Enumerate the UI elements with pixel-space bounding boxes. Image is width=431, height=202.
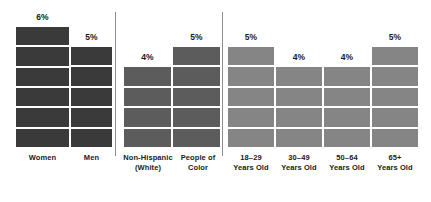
bar-segment	[372, 86, 418, 106]
bar-segment	[228, 86, 274, 106]
bar-segment	[324, 106, 370, 127]
bar-people-of-color	[173, 45, 220, 147]
category-label-line: 50–64	[324, 153, 370, 163]
group-age-bars: 5% 4% 4%	[228, 0, 431, 147]
bar-slot-age-18-29: 5%	[228, 0, 274, 147]
bar-segment	[173, 86, 220, 106]
category-label-line: People of	[174, 153, 222, 163]
bar-segment	[16, 45, 69, 65]
bar-slot-men: 5%	[71, 0, 112, 147]
group-divider-1	[115, 12, 116, 156]
bar-segment	[228, 65, 274, 85]
bar-segment	[276, 86, 322, 107]
bar-segment	[372, 127, 418, 147]
bar-segment	[124, 127, 171, 148]
bar-segment	[16, 25, 69, 45]
category-label-line: Men	[71, 153, 112, 163]
bar-slot-non-hispanic-white: 4%	[124, 0, 171, 147]
bar-slot-age-65-plus: 5%	[372, 0, 418, 147]
bar-segment	[71, 86, 112, 106]
bar-non-hispanic-white	[124, 65, 171, 147]
bar-women	[16, 25, 69, 147]
bar-segment	[124, 106, 171, 127]
bar-value-age-30-49: 4%	[276, 53, 322, 62]
category-label-line: Color	[174, 163, 222, 173]
bar-segment	[324, 127, 370, 148]
bar-segment	[228, 127, 274, 147]
category-label-line: Years Old	[372, 163, 418, 173]
bar-segment	[372, 65, 418, 85]
category-label-age-30-49: 30–49 Years Old	[276, 153, 322, 173]
group-race-ethnicity-bars: 4% 5%	[122, 0, 222, 147]
bar-age-50-64	[324, 65, 370, 147]
bar-segment	[173, 127, 220, 147]
bar-segment	[173, 45, 220, 65]
bar-value-women: 6%	[16, 13, 69, 22]
bar-segment	[228, 106, 274, 126]
bar-slot-women: 6%	[16, 0, 69, 147]
category-label-age-65-plus: 65+ Years Old	[372, 153, 418, 173]
bar-segment	[16, 86, 69, 106]
group-divider-2	[222, 12, 223, 156]
category-label-line: (White)	[118, 163, 178, 173]
bar-value-non-hispanic-white: 4%	[124, 53, 171, 62]
bar-age-30-49	[276, 65, 322, 147]
bar-value-age-50-64: 4%	[324, 53, 370, 62]
category-label-age-18-29: 18–29 Years Old	[228, 153, 274, 173]
bar-segment	[71, 45, 112, 65]
bar-value-age-65-plus: 5%	[372, 33, 418, 42]
category-label-line: Years Old	[276, 163, 322, 173]
category-label-line: 30–49	[276, 153, 322, 163]
group-gender-bars: 6% 5%	[0, 0, 115, 147]
bar-segment	[276, 127, 322, 148]
category-label-men: Men	[71, 153, 112, 163]
bar-segment	[324, 65, 370, 86]
bar-segment	[71, 127, 112, 147]
bar-segment	[124, 86, 171, 107]
bar-segment	[372, 45, 418, 65]
category-label-age-50-64: 50–64 Years Old	[324, 153, 370, 173]
bar-age-65-plus	[372, 45, 418, 147]
bar-segment	[173, 106, 220, 126]
category-label-women: Women	[16, 153, 69, 163]
bar-slot-age-50-64: 4%	[324, 0, 370, 147]
bar-slot-people-of-color: 5%	[173, 0, 220, 147]
bar-segment	[372, 106, 418, 126]
category-label-people-of-color: People of Color	[174, 153, 222, 173]
bar-value-age-18-29: 5%	[228, 33, 274, 42]
bar-segment	[276, 65, 322, 86]
category-label-line: Years Old	[228, 163, 274, 173]
bar-value-men: 5%	[71, 33, 112, 42]
bar-segment	[173, 65, 220, 85]
bar-segment	[71, 65, 112, 85]
bar-segment	[324, 86, 370, 107]
bar-segment	[124, 65, 171, 86]
bar-segment	[16, 106, 69, 126]
bar-slot-age-30-49: 4%	[276, 0, 322, 147]
bar-segment	[16, 66, 69, 86]
bar-men	[71, 45, 112, 147]
group-race-ethnicity: 4% 5% Non-Hispani	[122, 0, 222, 202]
bar-age-18-29	[228, 45, 274, 147]
category-label-line: Non-Hispanic	[118, 153, 178, 163]
bar-segment	[16, 127, 69, 147]
category-label-line: Women	[16, 153, 69, 163]
category-label-line: 65+	[372, 153, 418, 163]
grouped-bar-chart: 6% 5%	[0, 0, 431, 202]
group-gender: 6% 5%	[0, 0, 115, 202]
category-label-line: Years Old	[324, 163, 370, 173]
bar-value-people-of-color: 5%	[173, 33, 220, 42]
bar-segment	[276, 106, 322, 127]
category-label-line: 18–29	[228, 153, 274, 163]
group-age: 5% 4% 4%	[228, 0, 431, 202]
category-label-non-hispanic-white: Non-Hispanic (White)	[118, 153, 178, 173]
bar-segment	[228, 45, 274, 65]
bar-segment	[71, 106, 112, 126]
